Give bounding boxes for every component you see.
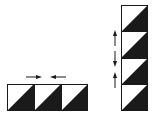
half-square-triangle-icon [7, 84, 34, 111]
tile-v-3 [121, 58, 148, 85]
tile-v-4 [121, 84, 148, 111]
tile-v-1 [121, 5, 148, 32]
tile-h-1 [7, 84, 34, 111]
arrow-down-icon [111, 50, 119, 68]
arrow-left-icon [49, 73, 67, 81]
arrow-up-icon [111, 71, 119, 89]
arrow-up-icon [111, 29, 119, 47]
half-square-triangle-icon [121, 5, 148, 32]
arrow-right-icon [25, 73, 43, 81]
tile-h-3 [61, 84, 88, 111]
half-square-triangle-icon [121, 84, 148, 111]
half-square-triangle-icon [61, 84, 88, 111]
tile-v-2 [121, 31, 148, 58]
half-square-triangle-icon [121, 58, 148, 85]
tile-h-2 [34, 84, 61, 111]
half-square-triangle-icon [121, 31, 148, 58]
half-square-triangle-icon [34, 84, 61, 111]
